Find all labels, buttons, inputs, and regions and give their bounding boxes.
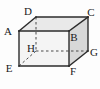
vertex-label-D: D xyxy=(24,6,32,17)
geometry-figure: A B C D E F G H xyxy=(0,0,100,89)
vertex-label-F: F xyxy=(70,66,76,77)
vertex-label-C: C xyxy=(87,7,94,18)
vertex-label-A: A xyxy=(4,26,12,37)
vertex-label-G: G xyxy=(90,47,98,58)
cuboid-diagram xyxy=(0,0,100,89)
vertex-label-H: H xyxy=(27,43,35,54)
vertex-label-E: E xyxy=(6,63,13,74)
vertex-label-B: B xyxy=(70,32,77,43)
